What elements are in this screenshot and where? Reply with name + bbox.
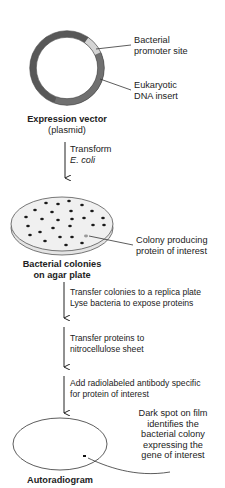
- autoradiogram-film: [13, 418, 107, 470]
- plate-label: Bacterial colonies on agar plate: [12, 259, 112, 280]
- step-replica-line2: Lyse bacteria to expose proteins: [70, 298, 201, 309]
- insert-callout-line1: Eukaryotic: [134, 80, 178, 91]
- step-transform-line2: E. coli: [70, 155, 112, 166]
- colony-callout: Colony producing protein of interest: [136, 235, 208, 256]
- plasmid-label-title: Expression vector: [17, 114, 117, 125]
- spot-callout-line5: gene of interest: [123, 450, 223, 461]
- step-transform-line1: Transform: [70, 144, 112, 155]
- eukaryotic-insert-segment: [55, 54, 101, 102]
- step-replica: Transfer colonies to a replica plate Lys…: [70, 287, 201, 308]
- step-antibody-line1: Add radiolabeled antibody specific: [70, 378, 200, 389]
- step-antibody-line2: for protein of interest: [70, 389, 200, 400]
- promoter-segment: [87, 40, 98, 54]
- dark-spot: [83, 455, 86, 457]
- promoter-callout-line1: Bacterial: [134, 35, 188, 46]
- plasmid-label: Expression vector (plasmid): [17, 114, 117, 135]
- step-nitrocellulose: Transfer proteins to nitrocellulose shee…: [70, 333, 144, 354]
- promoter-leader-line: [96, 45, 131, 49]
- step-replica-line1: Transfer colonies to a replica plate: [70, 287, 201, 298]
- colony-callout-line1: Colony producing: [136, 235, 208, 246]
- spot-callout-line1: Dark spot on film: [123, 408, 223, 419]
- promoter-callout-line2: promoter site: [134, 46, 188, 57]
- step-transform: Transform E. coli: [70, 144, 112, 165]
- autoradiogram-label: Autoradiogram: [10, 475, 110, 486]
- plasmid-label-subtitle: (plasmid): [17, 125, 117, 136]
- step-nitrocellulose-line2: nitrocellulose sheet: [70, 344, 144, 355]
- promoter-callout: Bacterial promoter site: [134, 35, 188, 56]
- spot-callout: Dark spot on film identifies the bacteri…: [123, 408, 223, 461]
- target-colony: [84, 235, 88, 238]
- insert-leader-line: [100, 79, 131, 90]
- insert-callout-line2: DNA insert: [134, 91, 178, 102]
- plate-label-line1: Bacterial colonies: [12, 259, 112, 270]
- step-antibody: Add radiolabeled antibody specific for p…: [70, 378, 200, 399]
- spot-callout-line4: expressing the: [123, 440, 223, 451]
- spot-callout-line3: bacterial colony: [123, 429, 223, 440]
- spot-callout-line2: identifies the: [123, 419, 223, 430]
- colony-callout-line2: protein of interest: [136, 246, 208, 257]
- plate-label-line2: on agar plate: [12, 270, 112, 281]
- step-nitrocellulose-line1: Transfer proteins to: [70, 333, 144, 344]
- agar-plate: [11, 197, 113, 255]
- plasmid-ring: [30, 31, 105, 106]
- insert-callout: Eukaryotic DNA insert: [134, 80, 178, 101]
